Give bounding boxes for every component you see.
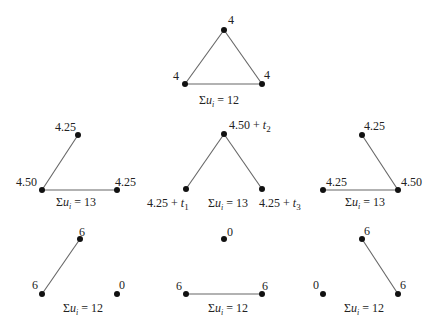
sum-label: Σui = 13 <box>345 195 385 211</box>
node <box>183 186 189 192</box>
node-label: 0 <box>313 278 319 292</box>
graph-6: 606Σui = 12 <box>313 224 406 317</box>
sum-label: Σui = 13 <box>208 196 248 212</box>
node <box>39 187 45 193</box>
sum-label: Σui = 12 <box>199 93 239 109</box>
node-label: 4.50 <box>401 175 422 189</box>
graph-5: 066Σui = 12 <box>176 225 268 317</box>
graph-0: 444Σui = 12 <box>173 13 270 109</box>
node-label: 6 <box>364 224 370 238</box>
edge <box>186 134 224 189</box>
node-label: 4.25 <box>115 175 136 189</box>
edge <box>42 239 80 294</box>
node-label: 6 <box>400 278 406 292</box>
node <box>221 27 227 33</box>
graph-1: 4.254.504.25Σui = 13 <box>16 120 136 211</box>
edge <box>362 239 398 294</box>
node <box>221 131 227 137</box>
node <box>183 291 189 297</box>
sum-label: Σui = 12 <box>344 301 384 317</box>
graph-3: 4.254.254.50Σui = 13 <box>320 119 422 211</box>
node-label: 4.50 <box>16 175 37 189</box>
graph-4: 660Σui = 12 <box>32 225 125 317</box>
node <box>259 186 265 192</box>
node-label: 4.25 <box>326 175 347 189</box>
node-label: 4.50 + t2 <box>229 118 271 134</box>
node-label: 0 <box>119 278 125 292</box>
node-label: 4.25 <box>55 120 76 134</box>
node-label: 6 <box>32 278 38 292</box>
node-label: 6 <box>79 225 85 239</box>
node <box>39 291 45 297</box>
edge <box>224 30 262 84</box>
sum-label: Σui = 12 <box>63 301 103 317</box>
node-label: 6 <box>262 279 268 293</box>
node-label: 4.25 + t1 <box>147 196 189 212</box>
edge <box>362 135 398 190</box>
node-label: 4.25 <box>364 119 385 133</box>
graph-2: 4.50 + t24.25 + t14.25 + t3Σui = 13 <box>147 118 301 212</box>
edge <box>185 30 224 84</box>
node-label: 4 <box>228 13 234 27</box>
graph-payoff-diagram: 444Σui = 124.254.504.25Σui = 134.50 + t2… <box>0 0 440 330</box>
diagram-svg: 444Σui = 124.254.504.25Σui = 134.50 + t2… <box>0 0 440 330</box>
node <box>182 81 188 87</box>
node <box>320 291 326 297</box>
node-label: 4 <box>173 69 179 83</box>
node-label: 4 <box>264 68 270 82</box>
sum-label: Σui = 12 <box>208 301 248 317</box>
node-label: 0 <box>227 225 233 239</box>
node-label: 6 <box>176 279 182 293</box>
edge <box>42 135 78 190</box>
node-label: 4.25 + t3 <box>259 196 301 212</box>
edge <box>224 134 262 189</box>
sum-label: Σui = 13 <box>56 195 96 211</box>
